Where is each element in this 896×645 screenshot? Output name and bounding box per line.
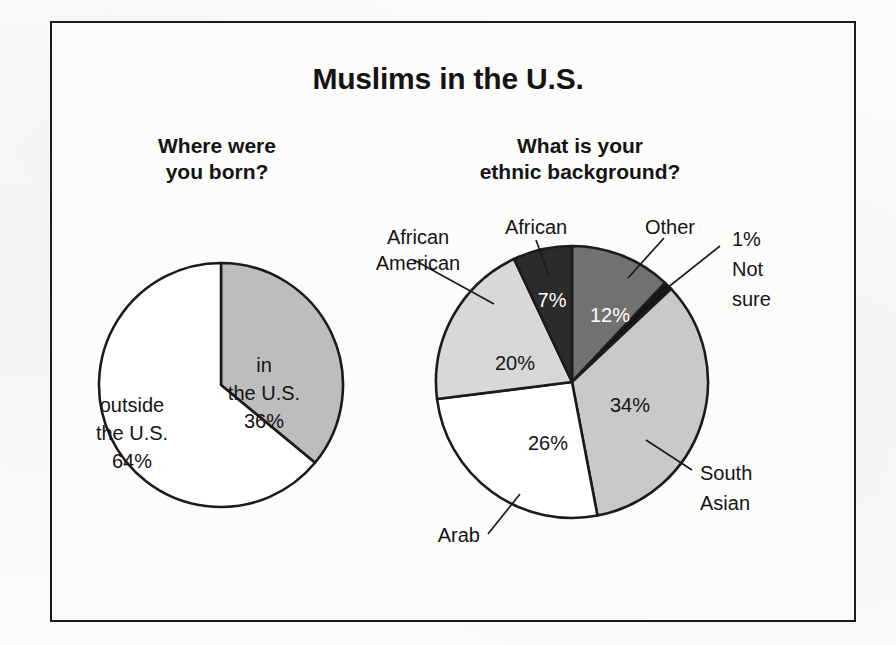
panel-title-right-line1: What is your (430, 133, 730, 159)
pie-chart-birthplace: in the U.S. 36% outside the U.S. 64% (96, 260, 346, 510)
panel-title-left-line2: you born? (86, 159, 348, 185)
pie-right-slices (436, 246, 708, 518)
panel-title-left-line1: Where were (86, 133, 348, 159)
slice-label-in-us-line2: the U.S. (228, 382, 300, 404)
callout-south-asian-line1: South (700, 462, 752, 484)
callout-south-asian-line2: Asian (700, 492, 750, 514)
callout-not-sure-line3: sure (732, 288, 771, 310)
callout-african: African (505, 216, 567, 238)
slice-value-arab: 26% (528, 432, 568, 454)
panel-title-right: What is your ethnic background? (430, 133, 730, 184)
panel-title-right-line2: ethnic background? (430, 159, 730, 185)
slice-value-other: 12% (590, 304, 630, 326)
callout-arab: Arab (438, 524, 480, 546)
pie-chart-ethnic-background: 7% 12% 20% 26% 34% African American Afri… (432, 222, 762, 562)
callout-not-sure-line2: Not (732, 258, 764, 280)
callout-african-american-line1: African (387, 226, 449, 248)
infographic-page: Muslims in the U.S. Where were you born?… (0, 0, 896, 645)
slice-label-outside-line2: the U.S. (96, 422, 168, 444)
slice-label-outside-line1: outside (100, 394, 165, 416)
slice-value-south-asian: 34% (610, 394, 650, 416)
slice-label-outside-value: 64% (112, 450, 152, 472)
callout-african-american-line2: American (376, 252, 460, 274)
slice-value-african-american: 20% (495, 352, 535, 374)
callout-other: Other (645, 216, 695, 238)
slice-label-in-us-line1: in (256, 354, 272, 376)
page-title: Muslims in the U.S. (0, 62, 896, 96)
callout-not-sure-value: 1% (732, 228, 761, 250)
panel-title-left: Where were you born? (86, 133, 348, 184)
slice-label-in-us-value: 36% (244, 410, 284, 432)
slice-value-african: 7% (538, 289, 567, 311)
